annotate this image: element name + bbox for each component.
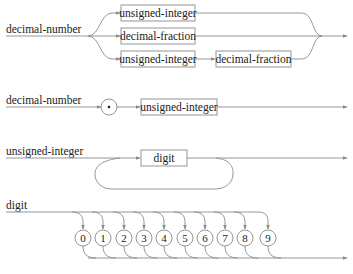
terminal-digit-2[interactable]: 2 bbox=[116, 230, 132, 246]
syntax-diagrams: decimal-number unsigned-integer decimal-… bbox=[0, 0, 353, 274]
branch-top bbox=[88, 13, 120, 36]
box-decimal-fraction-middle[interactable]: decimal-fraction bbox=[120, 28, 196, 44]
svg-text:2: 2 bbox=[121, 232, 127, 244]
svg-text:7: 7 bbox=[222, 232, 228, 244]
diagram-decimal-number: decimal-number unsigned-integer decimal-… bbox=[6, 5, 347, 67]
terminal-digit-7[interactable]: 7 bbox=[217, 230, 233, 246]
box-decimal-fraction-bottom[interactable]: decimal-fraction bbox=[216, 51, 292, 67]
rule-label: unsigned-integer bbox=[6, 145, 83, 158]
svg-text:5: 5 bbox=[182, 232, 188, 244]
diagram-decimal-fraction: decimal-number unsigned-integer bbox=[6, 94, 347, 115]
merge-top bbox=[195, 13, 322, 36]
merge-bottom bbox=[291, 36, 322, 59]
terminal-digit-1[interactable]: 1 bbox=[95, 230, 111, 246]
rule-label: digit bbox=[6, 199, 28, 212]
svg-text:9: 9 bbox=[265, 232, 271, 244]
rule-label: decimal-number bbox=[6, 94, 82, 106]
terminal-digit-0[interactable]: 0 bbox=[75, 230, 91, 246]
svg-text:digit: digit bbox=[153, 152, 175, 165]
diagram-digit: digit 0 1 2 3 4 5 6 7 8 9 bbox=[6, 199, 347, 258]
branch-bottom bbox=[88, 36, 120, 59]
box-digit[interactable]: digit bbox=[141, 150, 187, 166]
svg-text:6: 6 bbox=[202, 232, 208, 244]
svg-text:decimal-fraction: decimal-fraction bbox=[120, 30, 196, 42]
terminal-dot[interactable] bbox=[101, 99, 117, 115]
terminal-digit-5[interactable]: 5 bbox=[177, 230, 193, 246]
terminal-digit-4[interactable]: 4 bbox=[156, 230, 172, 246]
svg-text:1: 1 bbox=[100, 232, 106, 244]
terminal-digit-9[interactable]: 9 bbox=[260, 230, 276, 246]
terminal-digit-3[interactable]: 3 bbox=[136, 230, 152, 246]
svg-text:unsigned-integer: unsigned-integer bbox=[119, 53, 196, 66]
box-unsigned-integer-bottom[interactable]: unsigned-integer bbox=[119, 51, 196, 67]
svg-text:unsigned-integer: unsigned-integer bbox=[119, 7, 196, 20]
entry-line bbox=[6, 212, 268, 229]
svg-text:4: 4 bbox=[161, 232, 167, 244]
svg-text:3: 3 bbox=[141, 232, 147, 244]
terminal-digit-8[interactable]: 8 bbox=[237, 230, 253, 246]
box-unsigned-integer-top[interactable]: unsigned-integer bbox=[119, 5, 196, 21]
box-unsigned-integer[interactable]: unsigned-integer bbox=[140, 99, 217, 115]
svg-text:decimal-fraction: decimal-fraction bbox=[216, 53, 292, 65]
diagram-unsigned-integer: unsigned-integer digit bbox=[6, 145, 347, 189]
rule-label: decimal-number bbox=[6, 23, 82, 35]
terminal-digit-6[interactable]: 6 bbox=[197, 230, 213, 246]
svg-text:unsigned-integer: unsigned-integer bbox=[140, 101, 217, 114]
svg-text:0: 0 bbox=[80, 232, 86, 244]
svg-text:8: 8 bbox=[242, 232, 248, 244]
